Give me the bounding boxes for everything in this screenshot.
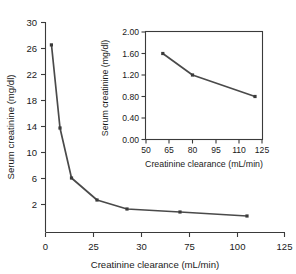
chart-figure: 30 26 22 18 14 10 6 2 0 25 30 75 100 1 (0, 0, 296, 274)
inset-y-ticklabel: 0.40 (122, 113, 139, 123)
inset-x-ticklabel: 95 (211, 145, 221, 155)
main-x-ticklabel: 75 (184, 241, 195, 252)
inset-y-ticks (142, 32, 146, 140)
inset-y-ticklabel: 0.80 (122, 92, 139, 102)
inset-x-ticklabel: 110 (232, 145, 246, 155)
inset-y-ticklabel: 2.00 (122, 27, 139, 37)
main-y-ticklabel: 22 (26, 69, 37, 80)
main-y-ticklabel: 18 (26, 95, 37, 106)
inset-x-ticks (146, 140, 262, 144)
main-x-ticklabel: 100 (230, 241, 246, 252)
main-y-ticks (41, 23, 46, 205)
inset-x-ticklabel: 65 (164, 145, 174, 155)
main-x-ticklabel: 0 (43, 241, 48, 252)
main-y-ticklabel: 10 (26, 147, 37, 158)
inset-frame (146, 32, 263, 140)
inset-plot: 2.00 1.60 1.20 0.80 0.40 0.00 50 65 80 9… (100, 27, 269, 169)
main-x-ticks (46, 233, 285, 238)
inset-x-axis-title: Creatinine clearance (mL/min) (145, 159, 263, 169)
main-y-ticklabel: 6 (32, 173, 37, 184)
chart-canvas: 30 26 22 18 14 10 6 2 0 25 30 75 100 1 (0, 0, 296, 274)
inset-y-ticklabel: 1.60 (122, 49, 139, 59)
main-y-ticklabel: 14 (26, 121, 37, 132)
inset-y-ticklabel: 1.20 (122, 70, 139, 80)
inset-x-ticklabel: 125 (255, 145, 270, 155)
inset-y-ticklabel: 0.00 (122, 135, 139, 145)
main-x-ticklabel: 125 (277, 241, 293, 252)
main-y-ticklabel: 26 (26, 43, 37, 54)
main-y-ticklabel: 2 (32, 199, 37, 210)
main-x-ticklabel: 25 (88, 241, 99, 252)
inset-x-ticklabel: 50 (141, 145, 151, 155)
main-x-ticklabel: 30 (136, 241, 147, 252)
main-y-axis-title: Serum creatinine (mg/dl) (5, 74, 16, 179)
inset-y-axis-title: Serum creatinine (mg/dl) (100, 40, 110, 136)
main-x-axis-title: Creatinine clearance (mL/min) (91, 259, 220, 270)
main-y-ticklabel: 30 (26, 17, 37, 28)
inset-x-ticklabel: 80 (188, 145, 198, 155)
